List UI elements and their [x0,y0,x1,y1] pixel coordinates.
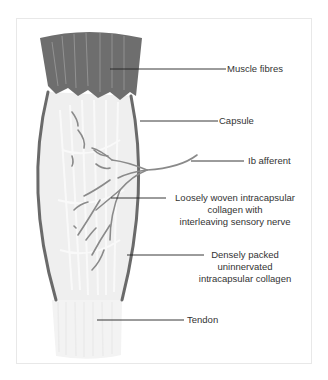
label-line: intracapsular collagen [190,273,300,285]
label-capsule: Capsule [219,115,254,127]
label-line: Densely packed [190,249,300,261]
capsule-interior [39,92,139,300]
label-line: collagen with [166,204,304,216]
label-muscle-fibres: Muscle fibres [227,63,283,75]
label-line: interleaving sensory nerve [166,216,304,228]
label-ib-afferent: Ib afferent [248,155,291,167]
label-tendon: Tendon [187,314,218,326]
label-loose-collagen: Loosely woven intracapsular collagen wit… [166,192,304,228]
label-line: Loosely woven intracapsular [166,192,304,204]
label-dense-collagen: Densely packed uninnervated intracapsula… [190,249,300,285]
muscle-fibres [40,32,142,100]
tendon-shape [52,300,122,359]
golgi-tendon-organ-illustration [0,0,328,380]
label-line: uninnervated [190,261,300,273]
